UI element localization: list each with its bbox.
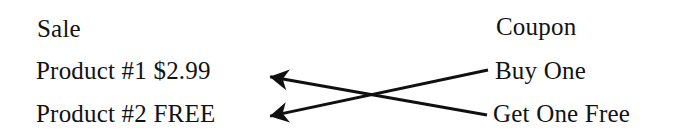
connector-arrows-layer xyxy=(0,0,688,140)
diagram-canvas: Sale Product #1 $2.99 Product #2 FREE Co… xyxy=(0,0,688,140)
